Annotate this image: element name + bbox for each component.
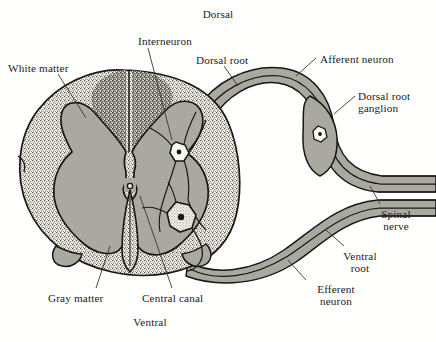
label-ventral: Ventral <box>112 316 188 328</box>
spinal-cord-body <box>18 70 240 276</box>
label-white-matter: White matter <box>8 62 100 74</box>
ganglion-cell-nucleus <box>318 132 322 136</box>
leader-dorsal-root-ganglion <box>334 96 355 114</box>
label-gray-matter: Gray matter <box>48 292 134 304</box>
label-dorsal-root: Dorsal root <box>196 54 276 66</box>
label-dorsal: Dorsal <box>180 8 256 20</box>
leader-afferent-neuron <box>296 58 316 76</box>
label-afferent-neuron: Afferent neuron <box>320 53 432 65</box>
label-spinal-nerve: Spinal nerve <box>366 208 426 233</box>
central-canal <box>127 183 132 188</box>
label-dorsal-root-ganglion: Dorsal root ganglion <box>358 90 436 115</box>
interneuron-nucleus <box>177 150 182 155</box>
label-interneuron: Interneuron <box>115 35 215 47</box>
label-central-canal: Central canal <box>142 292 234 304</box>
leader-efferent-neuron <box>288 260 306 280</box>
label-efferent-neuron: Efferent neuron <box>300 283 372 308</box>
spinal-cord-diagram: Dorsal Interneuron White matter Dorsal r… <box>0 0 436 342</box>
label-ventral-root: Ventral root <box>330 250 390 275</box>
motor-neuron-nucleus <box>178 214 184 220</box>
